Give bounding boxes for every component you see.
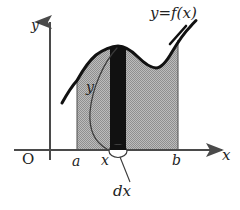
- strip-base-fill: [110, 145, 126, 150]
- leader-line-icon: [120, 157, 130, 182]
- y-axis-label: y: [31, 18, 39, 32]
- strip-height-label: y: [86, 80, 94, 94]
- lower-limit-label: a: [72, 154, 80, 168]
- sample-point-label: x: [101, 153, 109, 167]
- figure-integral-area: y=f(x) y x O a x b dx y: [0, 0, 240, 210]
- upper-limit-label: b: [172, 153, 181, 167]
- origin-label: O: [22, 152, 34, 167]
- strip-dx: [110, 46, 126, 150]
- function-label: y=f(x): [150, 6, 197, 21]
- x-axis-label: x: [222, 148, 230, 163]
- differential-label: dx: [113, 184, 131, 199]
